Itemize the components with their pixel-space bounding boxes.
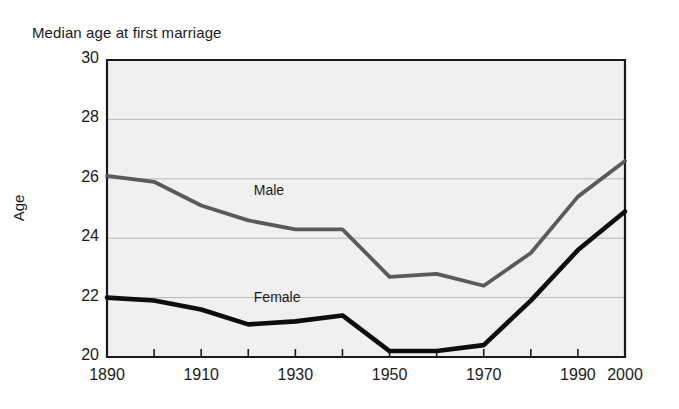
x-tick-label: 1950 [360,366,420,384]
y-tick-label: 28 [55,108,99,126]
y-tick-label: 30 [55,49,99,67]
x-tick-label: 1970 [454,366,514,384]
series-annotation-male: Male [254,182,284,198]
y-tick-label: 20 [55,346,99,364]
plot-canvas [0,0,679,409]
y-tick-label: 24 [55,227,99,245]
y-tick-label: 26 [55,168,99,186]
x-tick-label: 1930 [265,366,325,384]
x-tick-label: 1910 [171,366,231,384]
y-tick-label: 22 [55,287,99,305]
series-annotation-female: Female [254,289,301,305]
plot-background [107,60,625,357]
chart-figure: Median age at first marriage Age 3028262… [0,0,679,409]
x-tick-label: 2000 [595,366,655,384]
x-tick-label: 1890 [77,366,137,384]
